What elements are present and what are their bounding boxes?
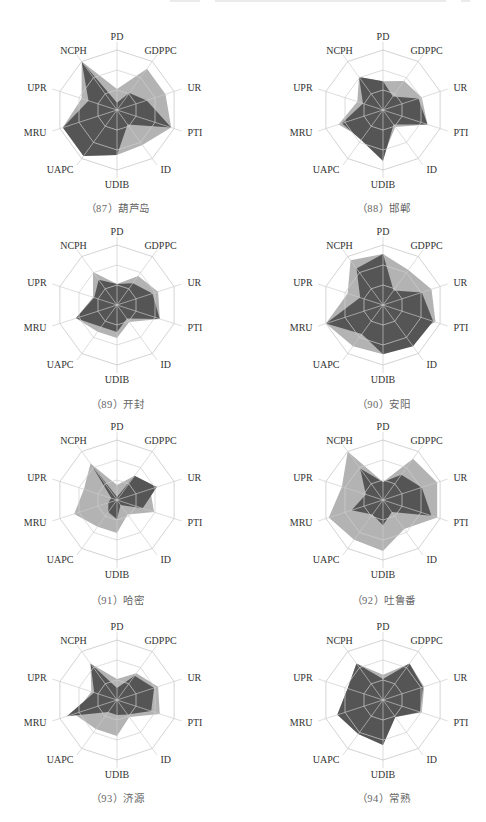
axis-label-udib: UDIB <box>371 179 396 190</box>
chart-caption: （87）葫芦岛 <box>0 200 239 215</box>
radar-chart: PDGDPPCURPTIIDUDIBUAPCMRUUPRNCPH <box>0 25 239 221</box>
radar-chart: PDGDPPCURPTIIDUDIBUAPCMRUUPRNCPH <box>262 220 486 416</box>
axis-label-id: ID <box>161 164 172 175</box>
axis-label-mru: MRU <box>290 717 314 728</box>
axis-label-ur: UR <box>187 472 201 483</box>
axis-label-gdppc: GDPPC <box>144 435 177 446</box>
axis-label-gdppc: GDPPC <box>410 45 443 56</box>
axis-label-mru: MRU <box>24 717 48 728</box>
axis-label-mru: MRU <box>290 322 314 333</box>
axis-label-pti: PTI <box>453 322 468 333</box>
axis-label-id: ID <box>161 359 172 370</box>
axis-label-mru: MRU <box>290 127 314 138</box>
axis-label-pti: PTI <box>187 717 202 728</box>
axis-label-uapc: UAPC <box>313 554 340 565</box>
axis-label-udib: UDIB <box>105 769 130 780</box>
axis-label-id: ID <box>427 164 438 175</box>
axis-label-ncph: NCPH <box>60 435 87 446</box>
axis-label-udib: UDIB <box>371 374 396 385</box>
axis-label-gdppc: GDPPC <box>144 45 177 56</box>
axis-label-pd: PD <box>377 226 390 237</box>
axis-label-udib: UDIB <box>105 179 130 190</box>
axis-label-id: ID <box>161 754 172 765</box>
radar-chart-panel: PDGDPPCURPTIIDUDIBUAPCMRUUPRNCPH（93）济源 <box>0 615 239 811</box>
axis-label-mru: MRU <box>24 517 48 528</box>
radar-chart-panel: PDGDPPCURPTIIDUDIBUAPCMRUUPRNCPH（91）哈密 <box>0 415 239 611</box>
axis-label-upr: UPR <box>27 672 47 683</box>
axis-label-pti: PTI <box>453 717 468 728</box>
axis-label-pd: PD <box>111 621 124 632</box>
axis-label-gdppc: GDPPC <box>410 635 443 646</box>
axis-label-id: ID <box>427 554 438 565</box>
radar-chart: PDGDPPCURPTIIDUDIBUAPCMRUUPRNCPH <box>0 615 239 811</box>
axis-label-ur: UR <box>453 277 467 288</box>
chart-caption: （93）济源 <box>0 790 239 805</box>
axis-label-id: ID <box>427 359 438 370</box>
axis-label-udib: UDIB <box>371 769 396 780</box>
axis-label-upr: UPR <box>27 472 47 483</box>
axis-label-uapc: UAPC <box>313 164 340 175</box>
axis-label-gdppc: GDPPC <box>410 240 443 251</box>
axis-label-id: ID <box>427 754 438 765</box>
chart-caption: （90）安阳 <box>262 396 486 411</box>
axis-label-upr: UPR <box>293 672 313 683</box>
clipped-page-header <box>170 0 470 2</box>
radar-chart-panel: PDGDPPCURPTIIDUDIBUAPCMRUUPRNCPH（88）邯郸 <box>262 25 486 221</box>
axis-label-pti: PTI <box>453 517 468 528</box>
radar-chart-panel: PDGDPPCURPTIIDUDIBUAPCMRUUPRNCPH（92）吐鲁番 <box>262 415 486 611</box>
radar-chart-panel: PDGDPPCURPTIIDUDIBUAPCMRUUPRNCPH（87）葫芦岛 <box>0 25 239 221</box>
chart-caption: （89）开封 <box>0 396 239 411</box>
axis-label-upr: UPR <box>27 82 47 93</box>
radar-chart: PDGDPPCURPTIIDUDIBUAPCMRUUPRNCPH <box>0 220 239 416</box>
radar-chart: PDGDPPCURPTIIDUDIBUAPCMRUUPRNCPH <box>262 25 486 221</box>
axis-label-ur: UR <box>187 82 201 93</box>
axis-label-uapc: UAPC <box>313 359 340 370</box>
axis-label-gdppc: GDPPC <box>410 435 443 446</box>
axis-label-ur: UR <box>187 277 201 288</box>
chart-caption: （88）邯郸 <box>262 200 486 215</box>
axis-label-uapc: UAPC <box>47 754 74 765</box>
axis-label-mru: MRU <box>24 322 48 333</box>
axis-label-uapc: UAPC <box>47 359 74 370</box>
axis-label-ncph: NCPH <box>326 435 353 446</box>
axis-label-pti: PTI <box>187 517 202 528</box>
axis-label-pd: PD <box>111 31 124 42</box>
axis-label-mru: MRU <box>290 517 314 528</box>
radar-chart-panel: PDGDPPCURPTIIDUDIBUAPCMRUUPRNCPH（90）安阳 <box>262 220 486 416</box>
axis-label-ncph: NCPH <box>326 240 353 251</box>
radar-chart: PDGDPPCURPTIIDUDIBUAPCMRUUPRNCPH <box>262 615 486 811</box>
axis-label-udib: UDIB <box>105 374 130 385</box>
chart-caption: （92）吐鲁番 <box>262 592 486 607</box>
axis-label-ur: UR <box>453 672 467 683</box>
axis-label-upr: UPR <box>293 472 313 483</box>
axis-label-upr: UPR <box>293 82 313 93</box>
axis-label-uapc: UAPC <box>313 754 340 765</box>
axis-label-pd: PD <box>111 226 124 237</box>
axis-label-pti: PTI <box>187 322 202 333</box>
axis-label-ur: UR <box>453 82 467 93</box>
axis-label-upr: UPR <box>293 277 313 288</box>
axis-label-ncph: NCPH <box>326 635 353 646</box>
radar-chart: PDGDPPCURPTIIDUDIBUAPCMRUUPRNCPH <box>0 415 239 611</box>
axis-label-ncph: NCPH <box>60 240 87 251</box>
axis-label-ur: UR <box>453 472 467 483</box>
axis-label-gdppc: GDPPC <box>144 240 177 251</box>
axis-label-id: ID <box>161 554 172 565</box>
axis-label-upr: UPR <box>27 277 47 288</box>
axis-label-udib: UDIB <box>371 569 396 580</box>
axis-label-ncph: NCPH <box>60 45 87 56</box>
radar-chart-panel: PDGDPPCURPTIIDUDIBUAPCMRUUPRNCPH（89）开封 <box>0 220 239 416</box>
axis-label-pd: PD <box>377 421 390 432</box>
chart-caption: （94）常熟 <box>262 790 486 805</box>
chart-caption: （91）哈密 <box>0 592 239 607</box>
axis-label-pd: PD <box>377 31 390 42</box>
axis-label-pd: PD <box>111 421 124 432</box>
axis-label-ncph: NCPH <box>326 45 353 56</box>
axis-label-mru: MRU <box>24 127 48 138</box>
axis-label-pd: PD <box>377 621 390 632</box>
axis-label-uapc: UAPC <box>47 554 74 565</box>
axis-label-ncph: NCPH <box>60 635 87 646</box>
radar-chart-panel: PDGDPPCURPTIIDUDIBUAPCMRUUPRNCPH（94）常熟 <box>262 615 486 811</box>
axis-label-ur: UR <box>187 672 201 683</box>
axis-label-udib: UDIB <box>105 569 130 580</box>
